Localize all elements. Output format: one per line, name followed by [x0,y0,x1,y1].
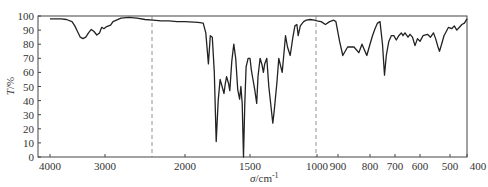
plot-frame [38,16,467,157]
y-tick-label: 30 [23,109,35,121]
y-tick-label: 70 [23,52,35,64]
reference-lines [152,16,316,157]
y-tick-label: 60 [23,66,35,78]
y-tick-label: 20 [23,123,35,135]
x-axis-title: σ/cm-1 [250,171,279,184]
x-tick-label: 3000 [94,160,117,172]
y-tick-label: 0 [29,151,35,163]
y-tick-label: 80 [23,38,35,50]
y-tick-label: 90 [23,24,35,36]
x-tick-label: 2000 [174,160,197,172]
x-tick-label: 400 [470,160,487,172]
y-tick-label: 100 [18,10,35,22]
x-tick-label: 800 [362,160,379,172]
x-tick-label: 700 [387,160,404,172]
y-axis-title: T/% [4,77,16,95]
y-tick-label: 50 [23,81,35,93]
x-tick-label: 500 [442,160,459,172]
x-tick-label: 900 [330,160,347,172]
ir-spectrum-chart: 0102030405060708090100 40003000200015001… [0,0,488,187]
x-tick-label: 600 [412,160,429,172]
y-tick-label: 40 [23,95,35,107]
spectrum-line [50,17,467,157]
x-tick-label: 1000 [306,160,329,172]
x-tick-label: 1500 [239,160,262,172]
y-axis: 0102030405060708090100 [18,10,42,163]
x-tick-label: 4000 [39,160,62,172]
y-tick-label: 10 [23,137,35,149]
